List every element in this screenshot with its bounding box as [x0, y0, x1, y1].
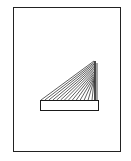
cable-stayed-bridge-icon: [0, 0, 131, 161]
bridge-cable: [72, 74, 94, 101]
diagram-canvas: [0, 0, 131, 161]
bridge-cables: [41, 61, 94, 100]
bridge-cable: [57, 67, 94, 100]
bridge-deck: [41, 101, 99, 111]
